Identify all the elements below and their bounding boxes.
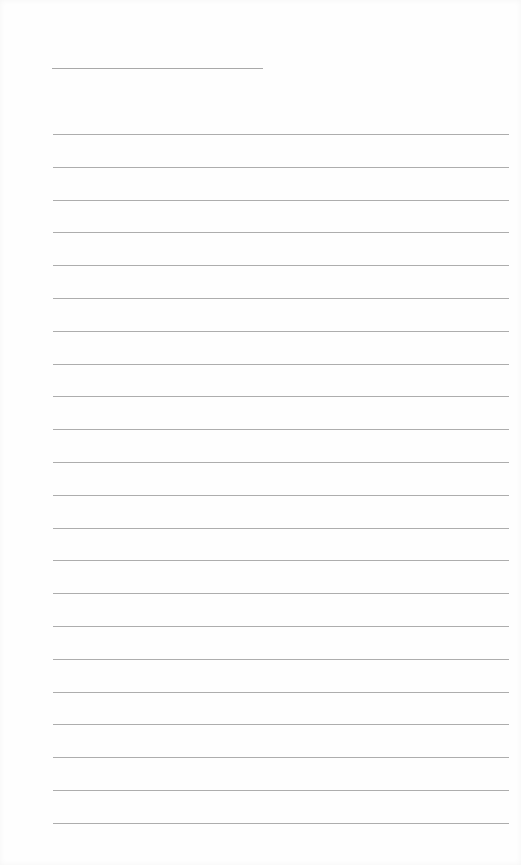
- ruled-line: [53, 429, 509, 430]
- ruled-line: [53, 626, 509, 627]
- ruled-line: [53, 265, 509, 266]
- ruled-line: [53, 528, 509, 529]
- ruled-line: [53, 364, 509, 365]
- ruled-line: [53, 167, 509, 168]
- ruled-line: [53, 757, 509, 758]
- lined-paper-page: [0, 0, 521, 865]
- title-underline: [52, 68, 263, 69]
- ruled-line: [53, 790, 509, 791]
- ruled-line: [53, 560, 509, 561]
- ruled-line: [53, 724, 509, 725]
- ruled-line: [53, 823, 509, 824]
- ruled-line: [53, 593, 509, 594]
- ruled-line: [53, 495, 509, 496]
- ruled-line: [53, 134, 509, 135]
- ruled-line: [53, 331, 509, 332]
- ruled-line: [53, 298, 509, 299]
- ruled-line: [53, 200, 509, 201]
- ruled-line: [53, 396, 509, 397]
- ruled-line: [53, 462, 509, 463]
- ruled-line: [53, 232, 509, 233]
- ruled-line: [53, 692, 509, 693]
- ruled-line: [53, 659, 509, 660]
